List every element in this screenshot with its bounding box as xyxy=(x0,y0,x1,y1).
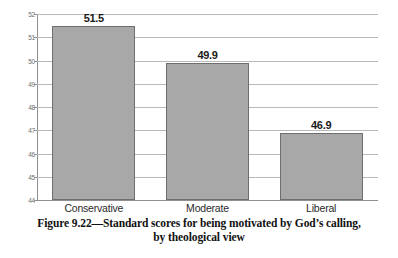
category-label-moderate: Moderate xyxy=(148,202,268,214)
bar-value-label: 51.5 xyxy=(54,12,134,24)
bar-conservative[interactable] xyxy=(52,26,135,200)
y-tick-label: 48 xyxy=(13,104,35,111)
bar-liberal[interactable] xyxy=(280,133,363,200)
bar-value-label: 46.9 xyxy=(281,119,361,131)
y-tick-label: 45 xyxy=(13,174,35,181)
caption-line-1: Figure 9.22—Standard scores for being mo… xyxy=(0,216,398,230)
category-label-conservative: Conservative xyxy=(34,202,154,214)
category-label-liberal: Liberal xyxy=(261,202,381,214)
y-tick-label: 49 xyxy=(13,81,35,88)
plot-area xyxy=(37,14,378,200)
y-tick-label: 47 xyxy=(13,127,35,134)
y-tick-label: 46 xyxy=(13,151,35,158)
y-tick-label: 51 xyxy=(13,34,35,41)
bar-value-label: 49.9 xyxy=(168,49,248,61)
y-tick-label: 52 xyxy=(13,11,35,18)
caption-line-2: by theological view xyxy=(0,230,398,244)
figure-caption: Figure 9.22—Standard scores for being mo… xyxy=(0,216,398,244)
y-tick-label: 44 xyxy=(13,197,35,204)
figure-container: 525150494847464544 ConservativeModerateL… xyxy=(0,0,398,258)
bar-moderate[interactable] xyxy=(166,63,249,200)
y-tick-label: 50 xyxy=(13,58,35,65)
gridline xyxy=(37,200,378,201)
